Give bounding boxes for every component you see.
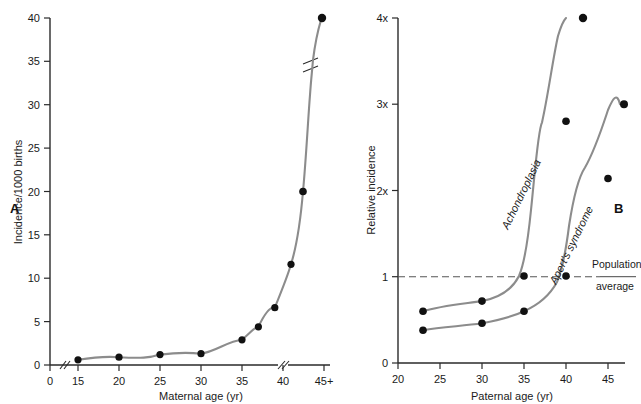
- panel-a-ytick-5: 5: [34, 316, 40, 328]
- panel-a-xtick-15: 15: [72, 375, 84, 387]
- panel-a-y-axis-title: Incidence/1000 births: [12, 139, 24, 244]
- panel-a-x-axis-title: Maternal age (yr): [159, 390, 243, 402]
- panel-b-population-average-label-line2: average: [596, 280, 634, 292]
- panel-b-population-average-label-line1: Population: [592, 258, 641, 270]
- panel-b-point: [520, 272, 528, 280]
- panel-a-ytick-35: 35: [28, 55, 40, 67]
- panel-b-curve-achondroplasia: [423, 18, 566, 311]
- panel-b-ytick-3x: 3x: [376, 98, 388, 110]
- panel-a-xtick-30: 30: [195, 375, 207, 387]
- panel-b-y-ticks: [392, 18, 398, 363]
- panel-a-curve-break-icon: [303, 58, 318, 72]
- panel-b-point: [520, 307, 528, 315]
- figure-svg: 0 5 10 15 20 25 30 35 40 0 15 20 25 30 3…: [0, 0, 641, 404]
- panel-a-data-points: [74, 14, 326, 364]
- panel-b-xtick-40: 40: [560, 373, 572, 385]
- panel-b-xtick-45: 45: [602, 373, 614, 385]
- panel-b-ytick-4x: 4x: [376, 12, 388, 24]
- panel-a-xtick-35: 35: [236, 375, 248, 387]
- panel-a-ytick-10: 10: [28, 272, 40, 284]
- panel-b-ytick-0: 0: [382, 357, 388, 369]
- panel-a-point: [287, 261, 294, 268]
- panel-a-xtick-40: 40: [277, 375, 289, 387]
- panel-b-label: B: [614, 201, 623, 216]
- panel-b-point: [478, 320, 486, 328]
- panel-a-point: [197, 350, 204, 357]
- panel-b-ytick-2x: 2x: [376, 185, 388, 197]
- panel-a-curve-upper: [310, 20, 321, 95]
- panel-b-point: [620, 100, 628, 108]
- panel-b-point: [579, 14, 587, 22]
- panel-a-ytick-20: 20: [28, 186, 40, 198]
- panel-a-xtick-20: 20: [113, 375, 125, 387]
- panel-a-point: [271, 304, 278, 311]
- panel-b-xtick-30: 30: [476, 373, 488, 385]
- panel-b-point: [604, 175, 612, 183]
- panel-b-x-axis-title: Paternal age (yr): [471, 390, 553, 402]
- panel-a-ytick-40: 40: [28, 12, 40, 24]
- panel-a-point: [115, 354, 122, 361]
- panel-b-series-label-achondroplasia: Achondroplasia: [499, 157, 543, 231]
- panel-b-points-apert: [419, 100, 628, 334]
- panel-a-xtick-45plus: 45+: [315, 375, 334, 387]
- panel-b-point: [419, 307, 427, 315]
- panel-b-xtick-25: 25: [434, 373, 446, 385]
- panel-a-label: A: [10, 201, 20, 216]
- panel-a-ytick-30: 30: [28, 99, 40, 111]
- panel-a-xtick-25: 25: [154, 375, 166, 387]
- panel-a-xtick-0: 0: [47, 375, 53, 387]
- panel-a-point: [255, 323, 262, 330]
- panel-a-point: [74, 356, 81, 363]
- panel-a-ytick-25: 25: [28, 142, 40, 154]
- panel-b-xtick-20: 20: [392, 373, 404, 385]
- panel-a-ytick-0: 0: [34, 359, 40, 371]
- panel-a: 0 5 10 15 20 25 30 35 40 0 15 20 25 30 3…: [10, 12, 333, 402]
- panel-a-point: [318, 14, 326, 22]
- panel-a-point: [299, 188, 307, 196]
- panel-b-point: [419, 326, 427, 334]
- panel-a-y-ticks: [44, 18, 50, 365]
- panel-b: 0 1 2x 3x 4x 20 25 30 35 40 45 Populatio…: [365, 12, 641, 402]
- panel-a-curve-lower: [78, 95, 310, 360]
- panel-a-x-ticks: [50, 365, 324, 371]
- panel-b-point: [478, 297, 486, 305]
- panel-a-ytick-15: 15: [28, 229, 40, 241]
- panel-b-y-axis-title: Relative incidence: [365, 145, 377, 234]
- panel-b-ytick-1: 1: [382, 271, 388, 283]
- panel-b-point: [562, 117, 570, 125]
- panel-a-point: [156, 351, 163, 358]
- panel-b-xtick-35: 35: [518, 373, 530, 385]
- figure-container: 0 5 10 15 20 25 30 35 40 0 15 20 25 30 3…: [0, 0, 641, 404]
- panel-b-x-ticks: [398, 363, 608, 369]
- panel-a-point: [238, 336, 245, 343]
